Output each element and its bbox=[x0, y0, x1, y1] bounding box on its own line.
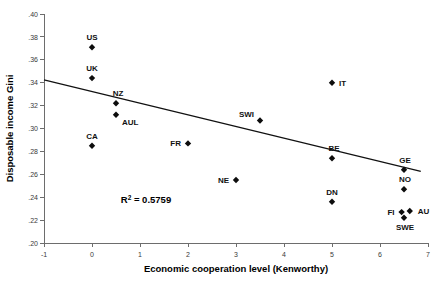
x-tick-label: 6 bbox=[378, 251, 382, 258]
data-point-label: AUL bbox=[122, 118, 139, 127]
y-tick-label: .24 bbox=[28, 194, 38, 201]
y-axis-ticks: .20.22.24.26.28.30.32.34.36.38.40 bbox=[28, 11, 44, 247]
data-point: AUL bbox=[113, 112, 139, 127]
x-tick-label: 5 bbox=[330, 251, 334, 258]
data-point-label: US bbox=[86, 33, 98, 42]
data-point-label: NO bbox=[399, 175, 411, 184]
y-tick-label: .22 bbox=[28, 217, 38, 224]
diamond-marker bbox=[257, 117, 263, 123]
data-point-label: BE bbox=[328, 144, 340, 153]
diamond-marker bbox=[89, 142, 95, 148]
data-point: IT bbox=[329, 79, 346, 88]
data-point: FI bbox=[387, 208, 404, 217]
x-tick-label: 0 bbox=[90, 251, 94, 258]
data-point: US bbox=[86, 33, 98, 50]
y-tick-label: .38 bbox=[28, 34, 38, 41]
data-point: BE bbox=[328, 144, 340, 161]
y-tick-label: .32 bbox=[28, 102, 38, 109]
diamond-marker bbox=[185, 140, 191, 146]
y-axis-title: Disposable income Gini bbox=[4, 75, 15, 183]
data-point: SWI bbox=[239, 110, 263, 123]
data-point: AU bbox=[407, 207, 430, 216]
x-axis-title: Economic cooperation level (Kenworthy) bbox=[144, 263, 328, 274]
data-point-label: FR bbox=[170, 139, 181, 148]
diamond-marker bbox=[398, 209, 404, 215]
data-point: FR bbox=[170, 139, 191, 148]
data-point: NE bbox=[218, 176, 239, 185]
data-point: SWE bbox=[396, 215, 415, 232]
y-tick-label: .34 bbox=[28, 79, 38, 86]
diamond-marker bbox=[113, 100, 119, 106]
data-point-label: NZ bbox=[113, 89, 124, 98]
data-point-label: SWI bbox=[239, 110, 254, 119]
diamond-marker bbox=[329, 155, 335, 161]
data-point: NO bbox=[399, 175, 411, 192]
diamond-marker bbox=[401, 215, 407, 221]
y-tick-label: .36 bbox=[28, 56, 38, 63]
data-point: NZ bbox=[113, 89, 124, 106]
diamond-marker bbox=[233, 177, 239, 183]
trend-line bbox=[44, 80, 421, 172]
y-tick-label: .28 bbox=[28, 148, 38, 155]
diamond-marker bbox=[89, 44, 95, 50]
x-tick-label: -1 bbox=[41, 251, 47, 258]
r2-value: = 0.5759 bbox=[131, 194, 171, 205]
diamond-marker bbox=[401, 186, 407, 192]
data-point-label: IT bbox=[339, 79, 346, 88]
scatter-chart: .20.22.24.26.28.30.32.34.36.38.40 -10123… bbox=[0, 0, 434, 282]
x-tick-label: 7 bbox=[426, 251, 430, 258]
data-point-label: NE bbox=[218, 176, 230, 185]
data-point: CA bbox=[86, 132, 98, 149]
diamond-marker bbox=[329, 199, 335, 205]
data-point: GE bbox=[399, 156, 411, 173]
data-point-label: FI bbox=[387, 208, 394, 217]
data-point: DN bbox=[326, 188, 338, 205]
diamond-marker bbox=[329, 80, 335, 86]
y-tick-label: .20 bbox=[28, 240, 38, 247]
x-tick-label: 2 bbox=[186, 251, 190, 258]
y-tick-label: .30 bbox=[28, 125, 38, 132]
chart-canvas: .20.22.24.26.28.30.32.34.36.38.40 -10123… bbox=[0, 0, 434, 282]
data-point-label: AU bbox=[418, 207, 430, 216]
y-tick-label: .26 bbox=[28, 171, 38, 178]
data-point: UK bbox=[86, 64, 98, 81]
diamond-marker bbox=[113, 112, 119, 118]
x-tick-label: 1 bbox=[138, 251, 142, 258]
diamond-marker bbox=[407, 208, 413, 214]
data-point-label: UK bbox=[86, 64, 98, 73]
diamond-marker bbox=[89, 75, 95, 81]
x-tick-label: 3 bbox=[234, 251, 238, 258]
y-tick-label: .40 bbox=[28, 11, 38, 18]
x-axis-ticks: -101234567 bbox=[41, 243, 430, 258]
data-point-label: DN bbox=[326, 188, 338, 197]
x-tick-label: 4 bbox=[282, 251, 286, 258]
data-point-label: CA bbox=[86, 132, 98, 141]
r-squared-annotation: R2 = 0.5759 bbox=[121, 193, 171, 205]
data-point-label: GE bbox=[399, 156, 411, 165]
data-point-label: SWE bbox=[396, 223, 415, 232]
